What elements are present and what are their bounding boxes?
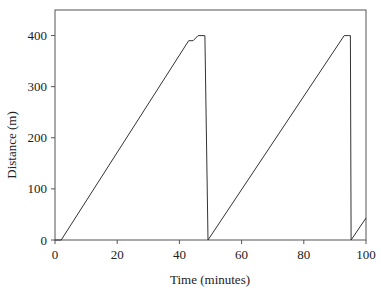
x-tick-label: 20 xyxy=(111,247,124,262)
chart-canvas: 0204060801000100200300400 Time (minutes)… xyxy=(0,0,381,295)
x-tick-label: 60 xyxy=(235,247,248,262)
y-tick-label: 400 xyxy=(28,28,48,43)
distance-line xyxy=(55,36,366,240)
x-tick-label: 40 xyxy=(173,247,186,262)
plot-area: 0204060801000100200300400 xyxy=(28,10,376,262)
y-axis-label: Distance (m) xyxy=(4,111,19,179)
x-tick-label: 100 xyxy=(356,247,376,262)
y-tick-label: 200 xyxy=(28,130,48,145)
x-axis-label: Time (minutes) xyxy=(170,272,250,287)
x-tick-label: 0 xyxy=(52,247,59,262)
plot-frame xyxy=(55,10,366,240)
y-tick-label: 100 xyxy=(28,181,48,196)
y-tick-label: 0 xyxy=(41,233,48,248)
x-tick-label: 80 xyxy=(297,247,310,262)
y-tick-label: 300 xyxy=(28,79,48,94)
